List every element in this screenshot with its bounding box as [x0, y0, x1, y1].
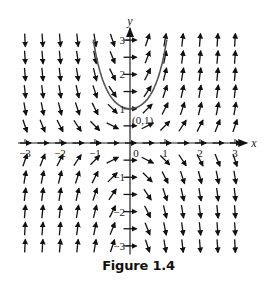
- direction-arrow: [77, 34, 78, 47]
- figure-caption: Figure 1.4: [0, 258, 277, 273]
- direction-arrow: [41, 102, 44, 115]
- direction-arrow: [217, 51, 218, 64]
- direction-arrow: [93, 188, 97, 200]
- direction-arrow: [235, 51, 236, 64]
- direction-arrow: [217, 205, 218, 218]
- direction-arrow: [42, 205, 43, 218]
- direction-arrow: [94, 239, 96, 252]
- direction-arrow: [180, 171, 184, 183]
- direction-arrow: [145, 223, 150, 235]
- direction-arrow: [217, 85, 219, 98]
- direction-arrow: [74, 120, 81, 131]
- direction-arrow: [145, 206, 151, 218]
- direction-arrow: [144, 189, 151, 200]
- direction-arrow: [182, 51, 184, 64]
- direction-arrow: [93, 85, 97, 97]
- direction-arrow: [164, 239, 166, 252]
- direction-arrow: [145, 69, 151, 81]
- direction-arrow: [215, 154, 220, 166]
- direction-arrow: [59, 51, 60, 64]
- direction-arrow: [199, 222, 200, 235]
- direction-arrow: [179, 120, 186, 131]
- direction-arrow: [198, 171, 201, 184]
- x-tick-label: −2: [54, 147, 66, 159]
- direction-arrow: [108, 104, 117, 113]
- y-tick-label: 1: [120, 103, 126, 115]
- direction-arrow: [24, 85, 25, 98]
- direction-arrow: [199, 51, 200, 64]
- y-tick-label: −2: [113, 206, 125, 218]
- direction-arrow: [217, 239, 218, 252]
- direction-arrow: [42, 188, 44, 201]
- direction-arrow: [234, 188, 235, 201]
- x-tick-label: 0: [133, 147, 139, 159]
- direction-arrow: [199, 68, 201, 81]
- slope-field-figure: −3−2−10123321−1−2−3xy(0,1): [0, 0, 277, 260]
- x-tick-label: −3: [19, 147, 31, 159]
- direction-arrow: [77, 239, 78, 252]
- x-axis-label: x: [250, 136, 257, 150]
- direction-arrow: [59, 205, 61, 218]
- y-tick-label: −3: [113, 240, 125, 252]
- direction-arrow: [199, 188, 201, 201]
- direction-arrow: [164, 222, 167, 235]
- direction-arrow: [216, 102, 219, 115]
- direction-arrow: [77, 51, 79, 64]
- direction-arrow: [216, 171, 219, 184]
- direction-arrow: [181, 68, 183, 81]
- direction-arrow: [163, 85, 167, 97]
- direction-arrow: [143, 173, 152, 182]
- direction-arrow: [59, 188, 61, 201]
- direction-arrow: [24, 68, 25, 81]
- direction-arrow: [76, 205, 78, 218]
- direction-arrow: [24, 205, 25, 218]
- direction-arrow: [58, 102, 61, 115]
- direction-arrow: [93, 68, 96, 81]
- direction-arrow: [110, 51, 115, 63]
- direction-arrow: [24, 102, 26, 115]
- direction-arrow: [25, 51, 26, 64]
- direction-arrow: [76, 68, 78, 81]
- direction-arrow: [234, 171, 236, 184]
- direction-arrow: [90, 121, 99, 130]
- direction-arrow: [76, 85, 79, 98]
- direction-arrow: [181, 188, 184, 201]
- direction-arrow: [145, 51, 150, 63]
- direction-arrow: [217, 34, 218, 47]
- direction-arrow: [57, 120, 63, 132]
- direction-arrow: [41, 171, 44, 184]
- direction-arrow: [217, 68, 218, 81]
- direction-arrow: [180, 103, 184, 115]
- direction-arrow: [93, 205, 96, 218]
- direction-arrow: [143, 104, 152, 113]
- direction-arrow: [235, 222, 236, 235]
- direction-arrow: [199, 34, 200, 47]
- direction-arrow: [199, 85, 201, 98]
- direction-arrow: [179, 155, 186, 166]
- direction-arrow: [142, 157, 154, 163]
- direction-arrow: [233, 120, 237, 132]
- direction-arrow: [92, 103, 98, 115]
- direction-arrow: [199, 205, 201, 218]
- x-tick-label: 1: [162, 147, 168, 159]
- direction-arrow: [42, 34, 43, 47]
- direction-arrow: [107, 123, 119, 129]
- direction-arrow: [59, 85, 61, 98]
- direction-arrow: [234, 85, 235, 98]
- direction-arrow: [25, 239, 26, 252]
- direction-arrow: [182, 239, 183, 252]
- direction-arrow: [107, 157, 119, 163]
- y-axis-label: y: [126, 14, 133, 28]
- y-tick-label: −1: [113, 171, 125, 183]
- direction-arrow: [162, 103, 168, 115]
- x-tick-label: 2: [197, 147, 203, 159]
- direction-arrow: [235, 239, 236, 252]
- direction-arrow: [59, 239, 60, 252]
- direction-arrow: [181, 205, 183, 218]
- direction-arrow: [42, 239, 43, 252]
- axis-labels: −3−2−10123321−1−2−3xy(0,1): [19, 14, 257, 252]
- direction-arrow: [23, 120, 27, 132]
- direction-arrow: [75, 103, 79, 115]
- direction-arrow: [109, 189, 116, 200]
- direction-arrow: [197, 120, 203, 132]
